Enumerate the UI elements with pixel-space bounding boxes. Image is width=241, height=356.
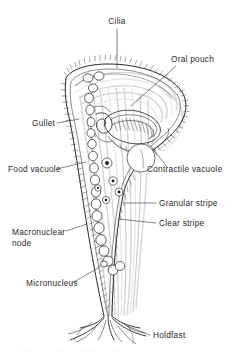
label-gullet: Gullet	[32, 118, 56, 128]
label-oral-pouch: Oral pouch	[171, 54, 214, 64]
food-vacuole-item	[109, 177, 117, 185]
label-macronuclear-node-line2: node	[12, 238, 32, 248]
food-vacuole-item	[102, 158, 112, 168]
figure-root: Cilia Oral pouch Gullet Food vacuole Con…	[0, 0, 241, 356]
ciliate-diagram: Cilia Oral pouch Gullet Food vacuole Con…	[0, 0, 241, 356]
food-vacuole-item	[95, 185, 101, 191]
label-macronuclear-node-line1: Macronuclear	[12, 227, 65, 237]
label-holdfast: Holdfast	[153, 330, 186, 340]
food-vacuole-item	[115, 188, 123, 196]
label-clear-stripe: Clear stripe	[159, 218, 205, 228]
label-contractile-vacuole: Contractile vacuole	[147, 164, 222, 174]
label-food-vacuole: Food vacuole	[8, 164, 61, 174]
micronucleus	[101, 261, 108, 267]
holdfast	[68, 316, 146, 344]
leader-macronuclear-node	[66, 224, 87, 231]
leader-clear-stripe	[118, 219, 156, 223]
label-granular-stripe: Granular stripe	[159, 198, 218, 208]
label-micronucleus: Micronucleus	[26, 278, 78, 288]
label-cilia: Cilia	[108, 16, 126, 26]
food-vacuole-item	[102, 196, 109, 203]
caption-cutoff: Figure cut off at bottom edge	[14, 346, 125, 355]
